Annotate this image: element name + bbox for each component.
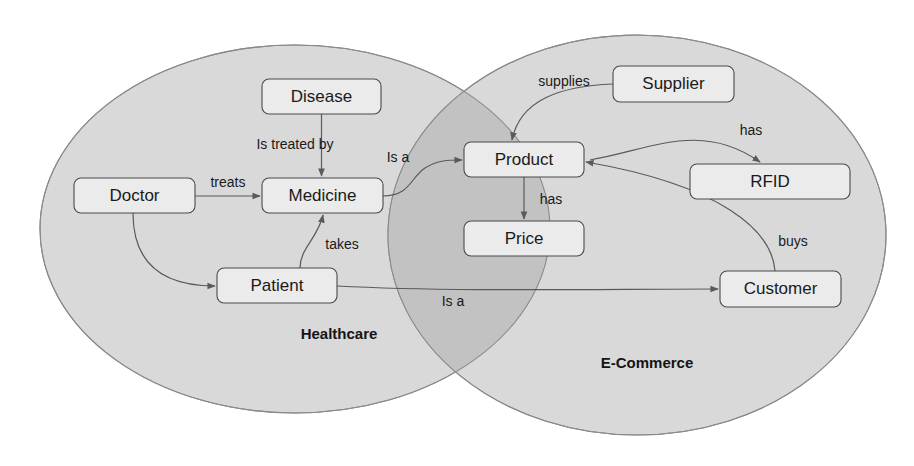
node-product-label: Product [495, 150, 554, 169]
node-medicine[interactable]: Medicine [262, 178, 383, 213]
node-price[interactable]: Price [464, 221, 584, 256]
edge-label-treats: treats [210, 174, 245, 190]
node-price-label: Price [505, 229, 544, 248]
edge-label-takes: takes [325, 236, 358, 252]
node-rfid[interactable]: RFID [690, 164, 850, 199]
node-supplier[interactable]: Supplier [613, 66, 734, 102]
node-disease[interactable]: Disease [262, 79, 381, 114]
venn-ontology-diagram: Is treated by treats takes Is a has supp… [0, 0, 914, 466]
edge-label-has-price: has [540, 191, 563, 207]
node-rfid-label: RFID [750, 172, 790, 191]
node-patient-label: Patient [251, 276, 304, 295]
region-label-ecommerce: E-Commerce [601, 354, 694, 371]
edge-label-is-a-patient-customer: Is a [442, 293, 465, 309]
node-doctor[interactable]: Doctor [74, 178, 195, 213]
node-disease-label: Disease [291, 87, 352, 106]
node-customer-label: Customer [744, 279, 818, 298]
node-product[interactable]: Product [464, 142, 584, 177]
node-patient[interactable]: Patient [217, 268, 337, 303]
edge-label-has-rfid: has [740, 122, 763, 138]
diagram-canvas: Is treated by treats takes Is a has supp… [0, 0, 914, 466]
edge-label-is-a-medicine-product: Is a [387, 149, 410, 165]
edge-label-buys: buys [778, 233, 808, 249]
node-doctor-label: Doctor [109, 186, 159, 205]
node-supplier-label: Supplier [642, 74, 705, 93]
edge-label-supplies: supplies [538, 73, 589, 89]
node-medicine-label: Medicine [288, 186, 356, 205]
node-customer[interactable]: Customer [720, 271, 841, 307]
region-label-healthcare: Healthcare [301, 325, 378, 342]
edge-label-is-treated-by: Is treated by [256, 136, 333, 152]
